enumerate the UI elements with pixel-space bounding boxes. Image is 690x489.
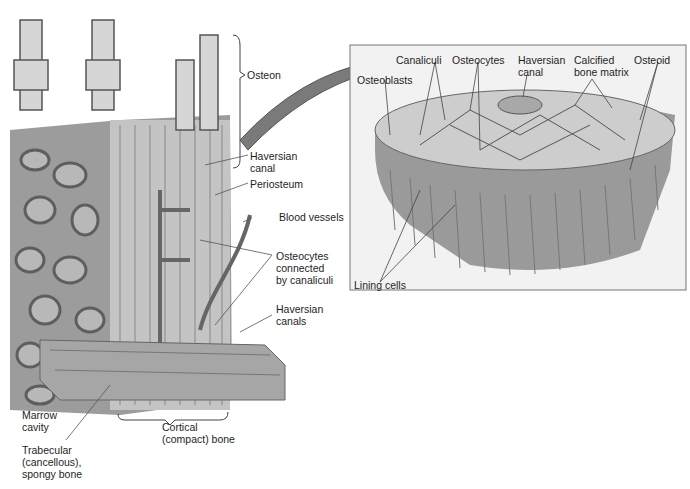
label-osteoid: Osteoid xyxy=(634,54,670,66)
label-cortical-bone: Cortical (compact) bone xyxy=(162,421,235,445)
label-osteocytes: Osteocytes xyxy=(452,54,505,66)
label-haversian-canals: Haversian canals xyxy=(276,303,323,327)
label-haversian-canal: Haversian canal xyxy=(250,150,297,174)
bone-cross-section xyxy=(10,20,395,440)
label-blood-vessels: Blood vessels xyxy=(279,211,344,223)
label-osteon: Osteon xyxy=(247,69,281,81)
label-calcified-bone-matrix: Calcified bone matrix xyxy=(574,54,629,78)
label-marrow-cavity: Marrow cavity xyxy=(22,409,57,433)
label-canaliculi: Canaliculi xyxy=(396,54,442,66)
label-periosteum: Periosteum xyxy=(250,178,303,190)
label-osteoblasts: Osteoblasts xyxy=(357,74,412,86)
label-trabecular-bone: Trabecular (cancellous), spongy bone xyxy=(22,444,82,480)
label-lining-cells: Lining cells xyxy=(354,279,406,291)
label-haversian-canal-inset: Haversian canal xyxy=(518,54,565,78)
label-osteocytes-connected: Osteocytes connected by canaliculi xyxy=(276,250,333,286)
